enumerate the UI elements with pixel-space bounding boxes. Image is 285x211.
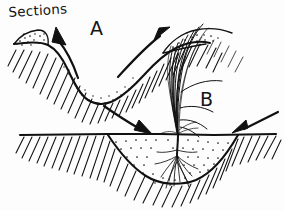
diagram-canvas (0, 0, 285, 211)
arrow-section-b-left (104, 106, 152, 134)
section-a-label: A (90, 17, 103, 39)
section-b-group (16, 106, 281, 207)
section-b-left-hatching (16, 136, 172, 207)
section-a-ditch-silt-stipple (63, 60, 158, 103)
section-b-label: B (200, 88, 213, 110)
sections-diagram: Sections A B (0, 0, 285, 211)
grass-root-crown (177, 134, 178, 156)
arrow-section-b-right (232, 112, 278, 133)
